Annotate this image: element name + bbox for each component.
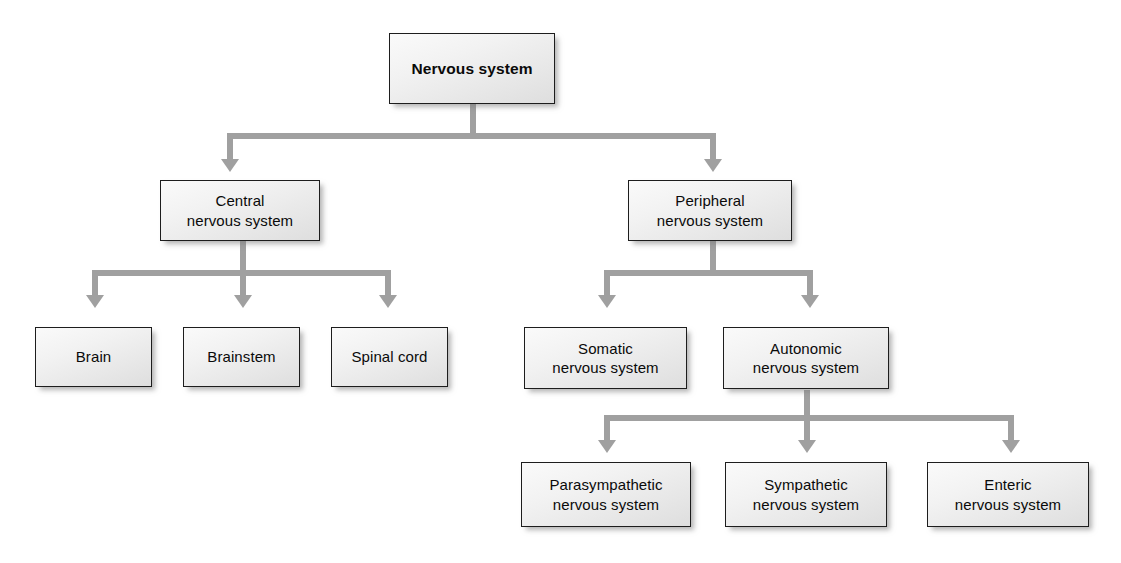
connector-peripheral-to-autonomic <box>807 270 813 297</box>
connector-root-to-central <box>227 133 233 161</box>
arrowhead-central <box>221 159 239 172</box>
connector-central-to-brainstem <box>240 270 246 297</box>
connector-central-stem <box>240 241 246 273</box>
node-parasympathetic-nervous-system[interactable]: Parasympathetic nervous system <box>521 462 691 527</box>
arrowhead-sympathetic <box>798 440 816 453</box>
node-brainstem[interactable]: Brainstem <box>183 327 300 387</box>
arrowhead-brain <box>86 295 104 308</box>
connector-root-bus <box>227 133 716 139</box>
node-brain[interactable]: Brain <box>35 327 152 387</box>
arrowhead-parasympathetic <box>598 440 616 453</box>
arrowhead-brainstem <box>234 295 252 308</box>
connector-central-to-brain <box>92 270 98 297</box>
node-sympathetic-nervous-system[interactable]: Sympathetic nervous system <box>725 462 887 527</box>
connector-autonomic-to-enteric <box>1008 415 1014 442</box>
node-central-nervous-system[interactable]: Central nervous system <box>160 180 320 241</box>
arrowhead-enteric <box>1002 440 1020 453</box>
connector-peripheral-bus <box>604 270 813 276</box>
connector-peripheral-stem <box>710 241 716 273</box>
connector-central-to-spinal-cord <box>385 270 391 297</box>
arrowhead-spinal-cord <box>379 295 397 308</box>
connector-autonomic-to-parasympathetic <box>604 415 610 442</box>
arrowhead-peripheral <box>704 159 722 172</box>
arrowhead-autonomic <box>801 295 819 308</box>
connector-root-stem <box>470 104 476 136</box>
node-spinal-cord[interactable]: Spinal cord <box>331 327 448 387</box>
connector-autonomic-to-sympathetic <box>804 415 810 442</box>
connector-root-to-peripheral <box>710 133 716 161</box>
node-autonomic-nervous-system[interactable]: Autonomic nervous system <box>723 327 889 389</box>
node-peripheral-nervous-system[interactable]: Peripheral nervous system <box>628 180 792 241</box>
node-nervous-system[interactable]: Nervous system <box>389 33 555 104</box>
connector-autonomic-stem <box>804 390 810 418</box>
node-somatic-nervous-system[interactable]: Somatic nervous system <box>524 327 687 389</box>
nervous-system-diagram: Nervous system Central nervous system Pe… <box>0 0 1121 563</box>
connector-peripheral-to-somatic <box>604 270 610 297</box>
node-enteric-nervous-system[interactable]: Enteric nervous system <box>927 462 1089 527</box>
arrowhead-somatic <box>598 295 616 308</box>
